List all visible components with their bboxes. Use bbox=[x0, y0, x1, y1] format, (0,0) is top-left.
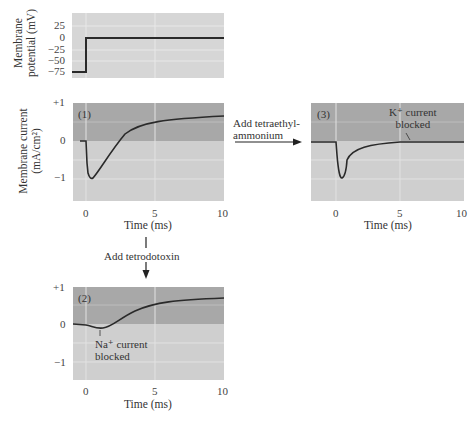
p2-xtick-0: 0 bbox=[83, 385, 89, 397]
p1-xtick-10: 10 bbox=[217, 207, 228, 219]
voltage-ylabel: Membrane potential (mV) bbox=[12, 0, 38, 88]
v-tick-m75: −75 bbox=[48, 65, 65, 77]
p1-ytick-m1: −1 bbox=[54, 171, 66, 183]
add-tea-label: Add tetraethyl- ammonium bbox=[233, 117, 300, 141]
p1-ytick-plus1: +1 bbox=[53, 96, 65, 108]
p1-ytick-0: 0 bbox=[60, 134, 66, 146]
panel-3-plot bbox=[311, 103, 464, 201]
na-blocked-label: Na⁺ current blocked bbox=[95, 338, 148, 362]
p2-ytick-0: 0 bbox=[60, 318, 66, 330]
p2-xtick-10: 10 bbox=[217, 385, 228, 397]
panel-3-label: (3) bbox=[317, 108, 330, 120]
p1-xlabel: Time (ms) bbox=[124, 219, 172, 231]
v-tick-25: 25 bbox=[54, 19, 65, 31]
k-blocked-label: K⁺ current blocked bbox=[389, 106, 437, 130]
p2-ytick-plus1: +1 bbox=[53, 281, 65, 293]
panel-2-plot bbox=[73, 287, 224, 380]
add-ttx-label: Add tetrodotoxin bbox=[104, 250, 179, 262]
p2-xlabel: Time (ms) bbox=[124, 398, 172, 410]
p2-ytick-m1: −1 bbox=[54, 356, 66, 368]
p3-xtick-10: 10 bbox=[456, 207, 467, 219]
p1-xtick-5: 5 bbox=[152, 207, 158, 219]
voltage-plot bbox=[72, 13, 224, 78]
v-tick-0: 0 bbox=[60, 31, 66, 43]
current-ylabel: Membrane current (mA/cm²) bbox=[17, 91, 43, 211]
p2-xtick-5: 5 bbox=[152, 385, 158, 397]
panel-1-label: (1) bbox=[78, 108, 91, 120]
figure-graphics bbox=[0, 0, 476, 425]
p3-xtick-0: 0 bbox=[333, 207, 339, 219]
p1-xtick-0: 0 bbox=[83, 207, 89, 219]
panel-2-label: (2) bbox=[78, 292, 91, 304]
panel-1-plot bbox=[73, 103, 224, 201]
p3-xlabel: Time (ms) bbox=[364, 219, 412, 231]
p3-xtick-5: 5 bbox=[397, 207, 403, 219]
